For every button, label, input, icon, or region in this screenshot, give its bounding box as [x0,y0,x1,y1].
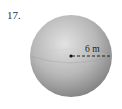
radius-label: 6 m [85,44,100,54]
sphere-diagram: 6 m [0,0,122,109]
